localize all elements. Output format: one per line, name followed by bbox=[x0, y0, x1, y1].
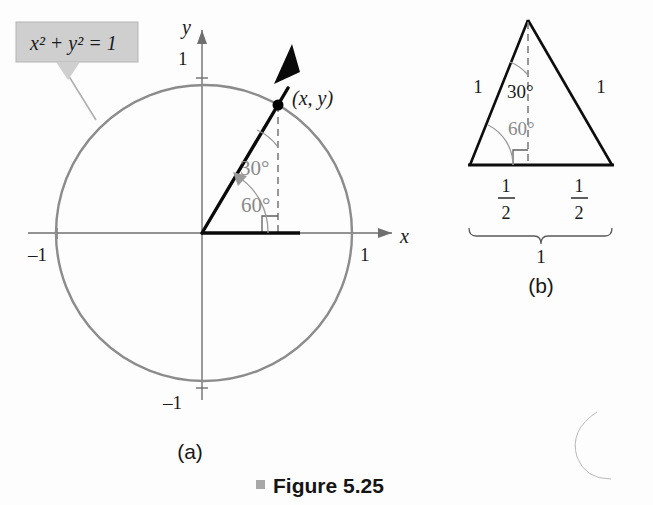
half-base-right-fraction: 1 2 bbox=[571, 176, 588, 223]
right-angle-marker bbox=[262, 216, 278, 233]
triangle-base-angle-label: 60° bbox=[508, 118, 535, 139]
x-axis-arrow-icon bbox=[378, 228, 392, 238]
full-base-label: 1 bbox=[536, 246, 546, 267]
figure-page: x² + y² = 1 x y 1 –1 1 –1 (x, y) 30° 60°… bbox=[0, 0, 653, 505]
angle-label-60: 60° bbox=[241, 193, 270, 217]
triangle-right-angle-marker bbox=[513, 150, 528, 165]
callout-tail-fill bbox=[56, 62, 80, 80]
triangle-right-side-label: 1 bbox=[596, 76, 606, 97]
half-base-left-fraction: 1 2 bbox=[498, 176, 515, 223]
half-base-right-denominator: 2 bbox=[575, 203, 584, 223]
terminal-point-label: (x, y) bbox=[292, 87, 333, 110]
x-tick-negative-label: –1 bbox=[27, 244, 47, 265]
figure-caption-group: Figure 5.25 bbox=[256, 474, 384, 497]
figure-caption: Figure 5.25 bbox=[273, 474, 384, 497]
half-base-right-numerator: 1 bbox=[575, 176, 584, 196]
y-axis-label: y bbox=[180, 16, 191, 39]
triangle-apex-angle-label: 30° bbox=[507, 81, 534, 102]
figure-canvas: x² + y² = 1 x y 1 –1 1 –1 (x, y) 30° 60°… bbox=[0, 0, 653, 505]
base-brace bbox=[469, 228, 612, 244]
angle-label-30: 30° bbox=[240, 156, 269, 180]
square-bullet-icon bbox=[256, 480, 265, 489]
panel-a-group: x² + y² = 1 x y 1 –1 1 –1 (x, y) 30° 60°… bbox=[16, 16, 409, 463]
half-base-left-denominator: 2 bbox=[502, 203, 511, 223]
y-tick-negative-label: –1 bbox=[162, 392, 182, 413]
terminal-point-dot bbox=[273, 100, 284, 111]
y-tick-positive-label: 1 bbox=[178, 48, 188, 69]
equation-callout-text: x² + y² = 1 bbox=[29, 32, 117, 55]
panel-b-group: 1 1 30° 60° 1 2 1 2 1 (b) bbox=[468, 20, 614, 297]
y-axis-arrow-icon bbox=[197, 30, 207, 44]
ray-arrowhead-icon bbox=[274, 44, 300, 84]
triangle-left-side-label: 1 bbox=[473, 76, 483, 97]
panel-a-label: (a) bbox=[177, 440, 203, 463]
panel-b-label: (b) bbox=[528, 274, 554, 297]
half-base-left-numerator: 1 bbox=[502, 176, 511, 196]
x-axis-label: x bbox=[399, 225, 409, 247]
triangle-angle-arc-30 bbox=[510, 62, 528, 75]
scan-artifact-arc bbox=[575, 412, 611, 479]
x-tick-positive-label: 1 bbox=[360, 244, 370, 265]
